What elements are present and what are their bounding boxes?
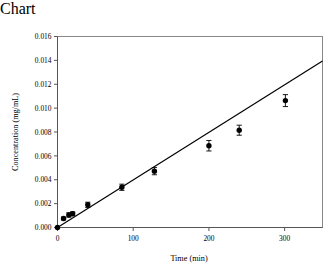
y-tick-label: 0.008: [35, 128, 52, 137]
data-point: [61, 216, 66, 221]
y-tick-label: 0.004: [35, 175, 52, 184]
data-point: [283, 98, 288, 103]
x-axis-title: Time (min): [170, 254, 208, 263]
data-point: [206, 143, 211, 148]
data-point: [237, 128, 242, 133]
x-tick-label: 0: [56, 234, 60, 243]
y-tick-label: 0.006: [35, 152, 52, 161]
y-axis-title: Concentration (mg/mL): [11, 93, 20, 171]
concentration-vs-time-scatter-plot: 0.0000.0020.0040.0060.0080.0100.0120.014…: [0, 18, 335, 267]
y-tick-label: 0.002: [35, 199, 52, 208]
data-point: [55, 225, 60, 230]
x-tick-label: 100: [128, 234, 139, 243]
x-tick-label: 300: [279, 234, 290, 243]
chart-figure: 0.0000.0020.0040.0060.0080.0100.0120.014…: [0, 18, 335, 267]
data-point: [85, 202, 90, 207]
y-tick-label: 0.010: [35, 104, 52, 113]
data-point: [119, 185, 124, 190]
y-tick-label: 0.012: [35, 80, 52, 89]
data-point: [152, 168, 157, 173]
data-point: [70, 211, 75, 216]
y-tick-label: 0.014: [35, 56, 52, 65]
y-tick-label: 0.000: [35, 223, 52, 232]
x-tick-label: 200: [203, 234, 214, 243]
y-tick-label: 0.016: [35, 32, 52, 41]
